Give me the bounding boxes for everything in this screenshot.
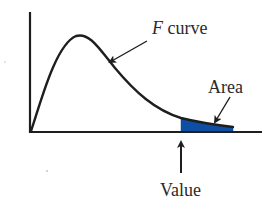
scan-speck: [46, 170, 47, 171]
area-pointer-arrow: [215, 97, 230, 122]
value-label: Value: [160, 180, 201, 200]
curve-word: curve: [163, 18, 207, 38]
f-curve-pointer-arrow: [110, 41, 147, 62]
area-label: Area: [208, 77, 243, 97]
scan-speck: [4, 61, 5, 62]
f-curve-label: F curve: [151, 18, 207, 38]
f-distribution-diagram: F curve Area Value: [0, 0, 276, 211]
